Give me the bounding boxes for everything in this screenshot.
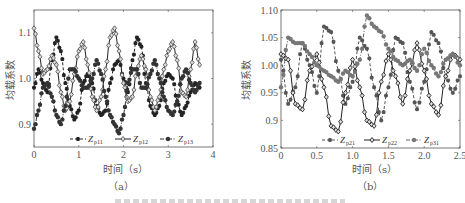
star-marker bbox=[453, 87, 457, 91]
star-marker bbox=[332, 40, 336, 44]
circle-marker bbox=[39, 91, 43, 95]
circle-marker bbox=[338, 77, 342, 81]
circle-marker bbox=[38, 103, 42, 107]
circle-marker bbox=[458, 63, 462, 67]
star-marker bbox=[328, 138, 332, 142]
circle-marker bbox=[160, 90, 164, 94]
circle-marker bbox=[166, 137, 170, 141]
star-marker bbox=[172, 82, 176, 86]
circle-marker bbox=[60, 117, 64, 121]
circle-marker bbox=[118, 127, 122, 131]
diamond-marker bbox=[396, 81, 400, 86]
diamond-marker bbox=[56, 69, 60, 74]
star-marker bbox=[370, 76, 374, 80]
circle-marker bbox=[100, 77, 104, 81]
diamond-marker bbox=[327, 114, 331, 119]
diamond-marker bbox=[117, 49, 121, 54]
diamond-marker bbox=[132, 87, 136, 92]
circle-marker bbox=[35, 113, 39, 117]
circle-marker bbox=[36, 108, 40, 112]
star-marker bbox=[458, 74, 462, 78]
circle-marker bbox=[56, 115, 60, 119]
diamond-marker bbox=[198, 62, 202, 67]
circle-marker bbox=[156, 72, 160, 76]
series-z-p11 bbox=[32, 35, 202, 121]
circle-marker bbox=[121, 113, 125, 117]
circle-marker bbox=[63, 104, 67, 108]
diamond-marker bbox=[107, 43, 111, 48]
circle-marker bbox=[358, 57, 362, 61]
x-tick-label: 1.5 bbox=[382, 150, 395, 161]
x-tick-label: 2.0 bbox=[418, 150, 431, 161]
circle-marker bbox=[123, 105, 127, 109]
y-tick-label: 1.05 bbox=[261, 32, 279, 43]
star-marker bbox=[111, 67, 115, 71]
star-marker bbox=[336, 69, 340, 73]
y-tick-label: 1.0 bbox=[19, 73, 32, 84]
star-marker bbox=[329, 30, 333, 34]
circle-marker bbox=[74, 69, 78, 73]
circle-marker bbox=[159, 81, 163, 85]
series-line bbox=[281, 43, 460, 131]
circle-marker bbox=[127, 77, 131, 81]
legend-subscript: p11 bbox=[94, 139, 103, 145]
panel-a-xlabel: 时间（s） bbox=[103, 161, 148, 176]
legend: Zp11Zp12Zp13 bbox=[70, 134, 193, 145]
circle-marker bbox=[157, 76, 161, 80]
star-marker bbox=[346, 96, 350, 100]
circle-marker bbox=[417, 63, 421, 67]
star-marker bbox=[312, 84, 316, 88]
star-marker bbox=[403, 51, 407, 55]
diamond-marker bbox=[303, 97, 307, 102]
circle-marker bbox=[362, 24, 366, 28]
diamond-marker bbox=[348, 65, 352, 70]
star-marker bbox=[110, 77, 114, 81]
circle-marker bbox=[415, 69, 419, 73]
circle-marker bbox=[453, 55, 457, 59]
circle-marker bbox=[194, 88, 198, 92]
legend: Zp21Zp22Zp31 bbox=[322, 135, 439, 146]
panel-a-ylabel: 均载系数 bbox=[2, 55, 17, 105]
circle-marker bbox=[176, 93, 180, 97]
star-marker bbox=[77, 108, 81, 112]
circle-marker bbox=[106, 108, 110, 112]
diamond-marker bbox=[83, 45, 87, 50]
circle-marker bbox=[154, 63, 158, 67]
diamond-marker bbox=[394, 74, 398, 79]
chart-panel-a: 012340.91.01.1Zp11Zp12Zp13 bbox=[19, 10, 216, 160]
circle-marker bbox=[412, 138, 416, 142]
diamond-marker bbox=[121, 137, 125, 142]
star-marker bbox=[334, 59, 338, 63]
star-marker bbox=[83, 79, 87, 83]
circle-marker bbox=[197, 81, 201, 85]
circle-marker bbox=[355, 62, 359, 66]
diamond-marker bbox=[351, 57, 355, 62]
star-marker bbox=[389, 73, 393, 77]
y-tick-label: 0.9 bbox=[19, 119, 32, 130]
circle-marker bbox=[124, 89, 128, 93]
diamond-marker bbox=[177, 66, 181, 71]
star-marker bbox=[171, 77, 175, 81]
circle-marker bbox=[105, 99, 109, 103]
circle-marker bbox=[53, 108, 57, 112]
circle-marker bbox=[350, 74, 354, 78]
star-marker bbox=[365, 47, 369, 51]
star-marker bbox=[130, 58, 134, 62]
diamond-marker bbox=[379, 79, 383, 84]
diamond-marker bbox=[289, 68, 293, 73]
x-tick-label: 3 bbox=[166, 149, 171, 160]
star-marker bbox=[456, 78, 460, 82]
circle-marker bbox=[303, 44, 307, 48]
circle-marker bbox=[389, 49, 393, 53]
circle-marker bbox=[379, 30, 383, 34]
star-marker bbox=[284, 91, 288, 95]
star-marker bbox=[417, 100, 421, 104]
y-tick-label: 1.00 bbox=[261, 60, 279, 71]
diamond-marker bbox=[339, 119, 343, 124]
star-marker bbox=[448, 87, 452, 91]
diamond-marker bbox=[363, 110, 367, 115]
diamond-marker bbox=[415, 41, 419, 46]
panel-b-xlabel: 时间（s） bbox=[352, 161, 397, 176]
circle-marker bbox=[281, 73, 285, 77]
x-tick-label: 2.5 bbox=[454, 150, 465, 161]
